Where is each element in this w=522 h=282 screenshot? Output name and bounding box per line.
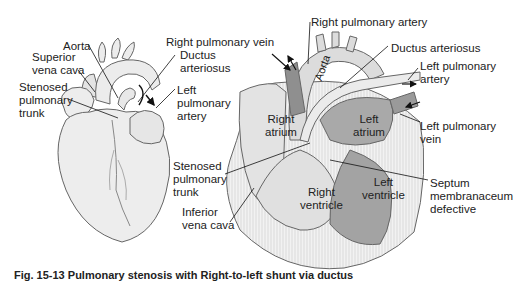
label-stenosed-pulmonary-trunk-external: Stenosed pulmonary trunk xyxy=(19,81,73,120)
label-left-atrium: Left atrium xyxy=(353,113,385,139)
label-right-atrium: Right atrium xyxy=(265,113,297,139)
label-ductus-arteriosus-external: Ductus arteriosus xyxy=(180,49,231,75)
label-septum-membranaceum-defective: Septum membranaceum defective xyxy=(430,177,513,216)
label-ductus-arteriosus: Ductus arteriosus xyxy=(391,42,480,55)
label-right-pulmonary-vein: Right pulmonary vein xyxy=(166,36,274,49)
label-right-ventricle: Right ventricle xyxy=(300,186,343,212)
label-right-pulmonary-artery: Right pulmonary artery xyxy=(311,16,427,29)
figure-caption: Fig. 15-13 Pulmonary stenosis with Right… xyxy=(14,269,353,281)
label-stenosed-pulmonary-trunk-section: Stenosed pulmonary trunk xyxy=(173,160,227,199)
label-left-ventricle: Left ventricle xyxy=(362,176,405,202)
label-left-pulmonary-artery: Left pulmonary artery xyxy=(420,60,496,86)
label-superior-vena-cava: Superior vena cava xyxy=(32,51,84,77)
label-left-pulmonary-vein: Left pulmonary vein xyxy=(420,120,496,146)
label-inferior-vena-cava: Inferior vena cava xyxy=(182,206,234,232)
label-left-pulmonary-artery-external: Left pulmonary artery xyxy=(177,84,231,123)
